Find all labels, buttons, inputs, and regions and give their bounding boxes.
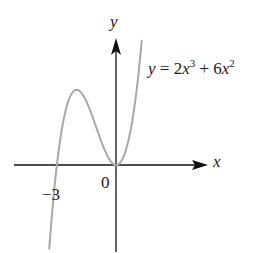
y-axis-label: y <box>110 13 118 30</box>
tick-label-neg-3: −3 <box>42 186 60 203</box>
equation-label: y = 2x3 + 6x2 <box>148 60 235 77</box>
eq-plus: + 6 <box>195 59 222 78</box>
eq-eq: = 2 <box>156 59 183 78</box>
eq-x1: x <box>182 59 190 78</box>
origin-label: 0 <box>101 174 110 191</box>
x-axis-label: x <box>213 153 221 170</box>
eq-p2: 2 <box>229 57 235 69</box>
graph-canvas <box>0 0 264 253</box>
cubic-curve <box>49 40 142 249</box>
eq-y: y <box>148 59 156 78</box>
